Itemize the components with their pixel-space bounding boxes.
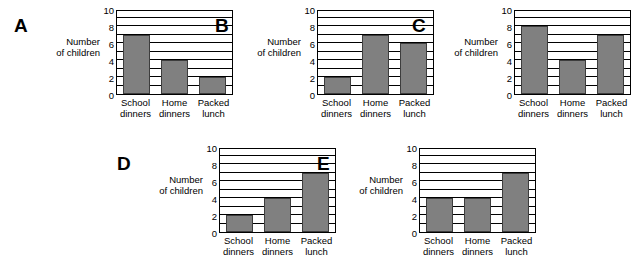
bar (597, 35, 624, 95)
y-tick-label: 10 (406, 144, 417, 153)
bar-slot (497, 149, 535, 232)
x-label-line2: dinners (458, 246, 497, 257)
y-axis-title-line1: Number (235, 36, 301, 47)
y-axis-e: 0246810 (403, 148, 419, 233)
chart-panel-d: D Number of children 0246810 Schooldinne… (117, 148, 336, 257)
y-axis-title-a: Number of children (34, 36, 100, 58)
bar-slot (553, 11, 591, 94)
x-label-line1: Home (553, 97, 592, 108)
plot-row-e: 0246810 (403, 148, 536, 233)
x-label-line1: Packed (592, 97, 631, 108)
y-axis-title-line1: Number (337, 174, 403, 185)
chart-body-c: Number of children 0246810 Schooldinners… (432, 10, 631, 119)
x-axis-labels-e: SchooldinnersHomedinnersPackedlunch (419, 235, 536, 257)
bar (123, 35, 150, 95)
x-axis-category-label: Packedlunch (497, 235, 536, 257)
y-tick-label: 8 (212, 161, 217, 170)
y-tick-label: 6 (507, 40, 512, 49)
x-label-line2: dinners (155, 108, 194, 119)
x-label-line1: School (219, 235, 258, 246)
bar (426, 198, 453, 232)
x-label-line2: lunch (497, 246, 536, 257)
y-tick-label: 4 (212, 195, 217, 204)
x-label-line1: Packed (497, 235, 536, 246)
chart-panel-a: A Number of children 0246810 Schooldinne… (14, 10, 233, 119)
x-label-line1: School (514, 97, 553, 108)
x-label-line1: Home (458, 235, 497, 246)
chart-body-b: Number of children 0246810 Schooldinners… (235, 10, 434, 119)
y-tick-label: 2 (212, 212, 217, 221)
x-label-line2: dinners (219, 246, 258, 257)
x-axis-labels-c: SchooldinnersHomedinnersPackedlunch (514, 97, 631, 119)
bar-slot (515, 11, 553, 94)
x-label-line2: dinners (356, 108, 395, 119)
bar-slot (458, 149, 496, 232)
chart-label-e: E (317, 154, 337, 173)
chart-label-c: C (412, 16, 432, 35)
x-label-line2: dinners (317, 108, 356, 119)
y-tick-label: 0 (109, 91, 114, 100)
y-axis-title-c: Number of children (432, 36, 498, 58)
y-tick-label: 0 (507, 91, 512, 100)
bar-slot (592, 11, 630, 94)
y-tick-label: 4 (507, 57, 512, 66)
y-tick-label: 8 (109, 23, 114, 32)
y-tick-label: 8 (412, 161, 417, 170)
y-tick-label: 10 (501, 6, 512, 15)
y-axis-title-line2: of children (235, 47, 301, 58)
bar (226, 215, 253, 232)
plot-wrap-c: 0246810 SchooldinnersHomedinnersPackedlu… (498, 10, 631, 119)
chart-body-e: Number of children 0246810 Schooldinners… (337, 148, 536, 257)
bar (264, 198, 291, 232)
y-tick-label: 8 (507, 23, 512, 32)
y-axis-title-line2: of children (34, 47, 100, 58)
bars-layer-c (515, 11, 630, 94)
chart-label-d: D (117, 154, 137, 173)
x-axis-category-label: Schooldinners (419, 235, 458, 257)
plot-row-a: 0246810 (100, 10, 233, 95)
y-tick-label: 6 (310, 40, 315, 49)
x-label-line1: Home (155, 97, 194, 108)
bar (362, 35, 389, 95)
x-axis-category-label: Homedinners (553, 97, 592, 119)
x-label-line2: dinners (258, 246, 297, 257)
plot-row-c: 0246810 (498, 10, 631, 95)
chart-body-d: Number of children 0246810 Schooldinners… (137, 148, 336, 257)
y-axis-title-line2: of children (337, 185, 403, 196)
x-label-line2: lunch (592, 108, 631, 119)
bar (521, 26, 548, 94)
x-label-line1: Home (356, 97, 395, 108)
bar (559, 60, 586, 94)
bars-layer-e (420, 149, 535, 232)
y-tick-label: 2 (412, 212, 417, 221)
bar (324, 77, 351, 94)
x-axis-category-label: Packedlunch (592, 97, 631, 119)
y-tick-label: 4 (310, 57, 315, 66)
y-tick-label: 6 (212, 178, 217, 187)
y-tick-label: 8 (310, 23, 315, 32)
chart-panel-b: B Number of children 0246810 Schooldinne… (215, 10, 434, 119)
bar-slot (220, 149, 258, 232)
y-tick-label: 2 (310, 74, 315, 83)
chart-panel-c: C Number of children 0246810 Schooldinne… (412, 10, 631, 119)
y-axis-title-line2: of children (137, 185, 203, 196)
y-tick-label: 4 (109, 57, 114, 66)
y-axis-title-e: Number of children (337, 174, 403, 196)
x-label-line1: School (116, 97, 155, 108)
x-axis-category-label: Schooldinners (219, 235, 258, 257)
y-tick-label: 10 (304, 6, 315, 15)
chart-body-a: Number of children 0246810 Schooldinners… (34, 10, 233, 119)
y-tick-label: 0 (212, 229, 217, 238)
y-tick-label: 0 (412, 229, 417, 238)
x-axis-category-label: Schooldinners (514, 97, 553, 119)
y-axis-a: 0246810 (100, 10, 116, 95)
x-label-line1: School (317, 97, 356, 108)
bar (464, 198, 491, 232)
x-label-line2: dinners (553, 108, 592, 119)
y-axis-c: 0246810 (498, 10, 514, 95)
bar-slot (258, 149, 296, 232)
y-axis-title-line2: of children (432, 47, 498, 58)
chart-panel-e: E Number of children 0246810 Schooldinne… (317, 148, 536, 257)
plot-area-c (514, 10, 631, 95)
y-axis-b: 0246810 (301, 10, 317, 95)
